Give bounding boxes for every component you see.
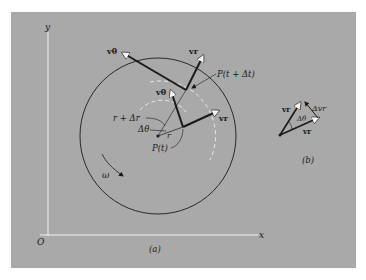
delta-v-r-label: Δvr bbox=[311, 104, 327, 113]
d-theta-pointer bbox=[150, 130, 166, 131]
p-t-dt-pointer bbox=[192, 74, 216, 88]
r-label: r bbox=[167, 131, 172, 140]
v-r-left-label-b: vr bbox=[281, 105, 291, 114]
v-r-outer-vector bbox=[186, 56, 203, 90]
radius-arc-r bbox=[140, 100, 186, 112]
v-r-bottom-label-b: vr bbox=[302, 127, 312, 136]
p-t-dt-label: P(t + Δt) bbox=[216, 69, 255, 79]
y-axis-label: y bbox=[44, 22, 51, 32]
r-plus-dr-label: r + Δr bbox=[113, 113, 141, 123]
d-theta-label: Δθ bbox=[137, 124, 149, 134]
v-r-inner-label: vr bbox=[218, 113, 229, 123]
v-theta-inner-label: vθ bbox=[155, 87, 167, 97]
kinematics-diagram: y x O vθ vr P(t + Δt) vθ vr r + Δr Δθ r … bbox=[0, 0, 366, 280]
p-t-label: P(t) bbox=[151, 143, 168, 153]
caption-b: (b) bbox=[302, 155, 314, 165]
caption-a: (a) bbox=[149, 244, 161, 254]
v-theta-inner-vector bbox=[171, 91, 183, 127]
origin-label: O bbox=[37, 237, 45, 247]
p-t-pointer bbox=[171, 129, 183, 148]
v-theta-outer-label: vθ bbox=[106, 46, 118, 56]
omega-label: ω bbox=[102, 170, 110, 180]
v-theta-outer-vector bbox=[123, 53, 186, 90]
x-axis-label: x bbox=[259, 230, 264, 240]
d-theta-label-b: Δθ bbox=[296, 115, 307, 123]
axes bbox=[40, 32, 258, 236]
v-r-outer-label: vr bbox=[188, 46, 199, 56]
